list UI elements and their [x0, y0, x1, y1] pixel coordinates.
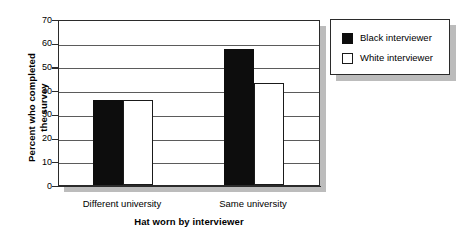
y-tick-label-40: 40 [30, 87, 52, 96]
legend-item-white: White interviewer [342, 49, 449, 67]
y-tick-mark-70 [52, 20, 58, 21]
x-axis-line [52, 186, 321, 187]
y-tick-label-10: 10 [30, 158, 52, 167]
y-tick-label-70: 70 [30, 16, 52, 25]
y-tick-mark-30 [52, 115, 58, 116]
y-tick-label-20: 20 [30, 134, 52, 143]
y-tick-label-0: 0 [30, 182, 52, 191]
legend-label-white: White interviewer [360, 53, 433, 63]
gridline-50 [59, 68, 319, 69]
legend-label-black: Black interviewer [360, 33, 432, 43]
y-tick-mark-40 [52, 91, 58, 92]
y-tick-label-30: 30 [30, 110, 52, 119]
x-tick-label-0: Different university [67, 198, 177, 209]
y-tick-mark-20 [52, 139, 58, 140]
black-square-icon [342, 33, 353, 44]
bar-white-0 [123, 100, 153, 185]
x-axis-title: Hat worn by interviewer [58, 216, 320, 227]
bar-white-1 [254, 83, 284, 185]
y-tick-mark-50 [52, 67, 58, 68]
y-tick-label-50: 50 [30, 63, 52, 72]
gridline-60 [59, 45, 319, 46]
y-axis-line [58, 20, 59, 187]
y-tick-mark-0 [52, 186, 58, 187]
bar-black-0 [93, 100, 123, 185]
bar-chart-figure: Percent who completed the survey 0102030… [0, 0, 467, 235]
plot-canvas [59, 21, 319, 185]
y-axis-ticks: 010203040506070 [28, 0, 52, 235]
y-tick-label-60: 60 [30, 39, 52, 48]
y-tick-mark-10 [52, 162, 58, 163]
x-tick-label-1: Same university [198, 198, 308, 209]
legend-item-black: Black interviewer [342, 29, 449, 47]
legend: Black interviewer White interviewer [330, 19, 450, 75]
y-tick-mark-60 [52, 44, 58, 45]
bar-black-1 [224, 49, 254, 185]
white-square-icon [342, 53, 353, 64]
plot-area [58, 20, 320, 186]
